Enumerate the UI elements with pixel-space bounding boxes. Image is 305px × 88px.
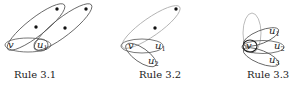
caption-rule-3-3: Rule 3.3: [247, 69, 289, 80]
vertex-dot: [63, 26, 66, 29]
vertex-label-u2: u2: [148, 55, 159, 68]
vertex-dot: [84, 7, 87, 10]
rule-3-2-diagram: v u1 u2 Rule 3.2: [117, 0, 185, 80]
vertex-label-v: v: [8, 39, 14, 50]
vertex-dot: [174, 7, 177, 10]
vertex-dot: [153, 26, 156, 29]
caption-rule-3-1: Rule 3.1: [14, 69, 56, 80]
vertex-label-v: v: [246, 40, 252, 51]
rule-3-3-diagram: v u1 u2 u3 Rule 3.3: [241, 13, 289, 80]
vertex-label-u1: u1: [269, 25, 280, 38]
vertex-dot: [55, 7, 58, 10]
rule-3-1-diagram: v u1 Rule 3.1: [2, 0, 97, 80]
vertex-dot: [34, 25, 37, 28]
vertex-label-u3: u3: [269, 54, 280, 67]
vertex-label-v: v: [128, 40, 134, 51]
hypergraph-rules-figure: v u1 Rule 3.1 v u1 u2 Rule 3.2 v u1 u2: [0, 0, 305, 88]
caption-rule-3-2: Rule 3.2: [139, 69, 181, 80]
